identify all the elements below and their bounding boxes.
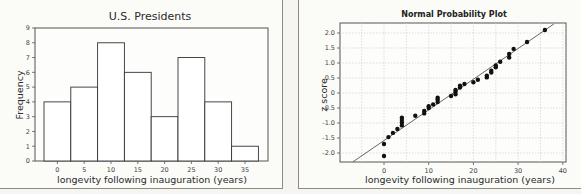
histogram-x-tick: 35: [241, 166, 249, 174]
npp-y-tick: -1.5: [322, 134, 335, 142]
data-point: [449, 94, 453, 98]
npp-y-tick: -2.0: [322, 149, 335, 157]
npp-y-tick: 2.0: [325, 29, 335, 37]
histogram-y-tick: 9: [26, 24, 30, 32]
data-point: [462, 82, 466, 86]
data-point: [413, 114, 417, 118]
histogram-y-tick: 8: [26, 39, 30, 47]
histogram-bar: [71, 87, 98, 161]
histogram-x-tick: 5: [82, 166, 86, 174]
histogram-y-tick: 4: [26, 98, 30, 106]
data-point: [395, 127, 399, 131]
histogram-x-label: longevity following inauguration (years): [57, 174, 247, 185]
npp-y-label: z score: [318, 78, 329, 112]
data-point: [543, 28, 547, 32]
data-point: [453, 88, 457, 92]
histogram-y-tick: 5: [26, 83, 30, 91]
histogram-bar: [232, 146, 259, 161]
npp-x-tick: 40: [559, 167, 567, 175]
histogram-bar: [178, 58, 205, 161]
data-point: [507, 52, 511, 56]
data-point: [427, 104, 431, 108]
histogram-y-tick: 1: [26, 143, 30, 151]
histogram-title: U.S. Presidents: [109, 10, 192, 23]
data-point: [382, 154, 386, 158]
data-point: [400, 115, 404, 119]
npp-plot-area: [340, 23, 566, 162]
histogram-bar: [124, 72, 151, 161]
histogram-y-tick: 2: [26, 128, 30, 136]
npp-y-tick: 0: [331, 89, 335, 97]
histogram-bar: [205, 102, 232, 161]
data-point: [471, 80, 475, 84]
histogram-x-tick: 30: [214, 166, 222, 174]
data-point: [391, 131, 395, 135]
data-point: [494, 63, 498, 67]
npp-y-tick: 1.0: [325, 59, 335, 67]
histogram-x-tick: 25: [187, 166, 195, 174]
data-point: [431, 102, 435, 106]
npp-y-tick: -1.0: [322, 119, 335, 127]
histogram-x-tick: 10: [107, 166, 115, 174]
data-point: [422, 109, 426, 113]
normal-probability-chart: Normal Probability Plot 2.01.51.00.50-0.…: [299, 0, 581, 189]
data-point: [476, 78, 480, 82]
histogram-bar: [98, 43, 125, 161]
npp-x-label: longevity following inauguration (years): [365, 174, 555, 185]
npp-y-tick: 1.5: [325, 44, 335, 52]
data-point: [435, 96, 439, 100]
histogram-bar: [44, 102, 71, 161]
data-point: [525, 40, 529, 44]
npp-title: Normal Probability Plot: [401, 10, 507, 19]
histogram-x-tick: 15: [134, 166, 142, 174]
histogram-y-tick: 0: [26, 157, 30, 165]
data-point: [511, 47, 515, 51]
histogram-bar: [151, 117, 178, 161]
histogram-y-label: Frequency: [14, 70, 25, 119]
histogram-y-tick: 6: [26, 69, 30, 77]
data-point: [498, 60, 502, 64]
data-point: [485, 73, 489, 77]
histogram-chart: U.S. Presidents 051015202530350123456789…: [0, 0, 283, 189]
histogram-y-tick: 3: [26, 113, 30, 121]
data-point: [382, 142, 386, 146]
data-point: [386, 135, 390, 139]
data-point: [489, 69, 493, 73]
histogram-y-tick: 7: [26, 54, 30, 62]
data-point: [458, 84, 462, 88]
histogram-x-tick: 0: [55, 166, 59, 174]
histogram-panel: U.S. Presidents 051015202530350123456789…: [0, 0, 283, 189]
normal-probability-panel: Normal Probability Plot 2.01.51.00.50-0.…: [298, 0, 581, 189]
histogram-x-tick: 20: [160, 166, 168, 174]
